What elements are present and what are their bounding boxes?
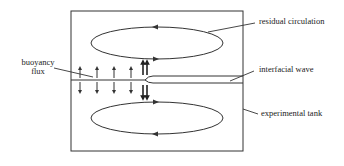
- arrow-left-icon: [152, 132, 158, 137]
- experimental-tank: [71, 11, 243, 151]
- experimental-tank-label: experimental tank: [261, 109, 322, 118]
- upper-circulation: [91, 25, 223, 62]
- interfacial-wave-label: interfacial wave: [259, 65, 314, 74]
- leader-lines: [54, 23, 258, 114]
- buoyancy-flux-line2: flux: [18, 67, 58, 76]
- arrow-right-icon: [153, 100, 159, 105]
- arrow-left-icon: [152, 25, 158, 30]
- lower-circulation: [91, 100, 223, 137]
- residual-circulation-label: residual circulation: [259, 17, 324, 26]
- arrow-right-icon: [153, 57, 159, 62]
- buoyancy-flux-label: buoyancy flux: [18, 58, 58, 76]
